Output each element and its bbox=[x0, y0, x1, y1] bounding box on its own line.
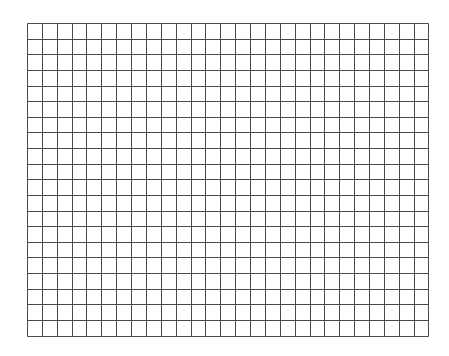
graph-paper-grid bbox=[27, 23, 431, 338]
grid-lines bbox=[27, 23, 431, 338]
